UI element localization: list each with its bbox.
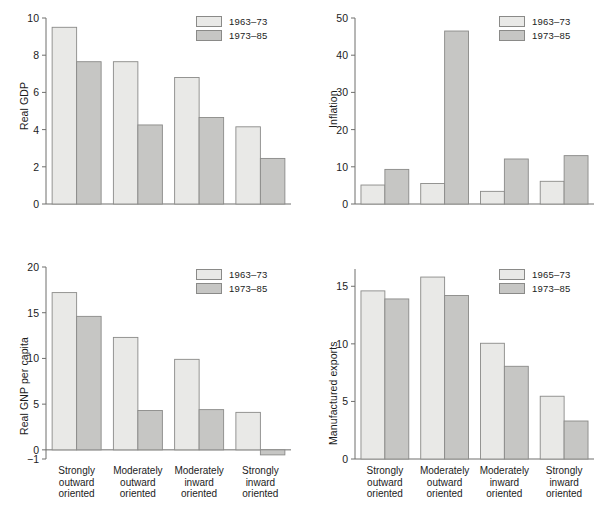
y-axis-tick-label: 5 <box>303 395 348 407</box>
bar <box>175 78 200 204</box>
y-axis-tick-label: 30 <box>303 86 348 98</box>
x-axis-category-label: Strongly outward oriented <box>355 465 415 500</box>
x-axis-category-label: Strongly outward oriented <box>46 465 107 500</box>
bar <box>236 127 261 204</box>
y-axis-tick-label: 10 <box>303 161 348 173</box>
bar <box>564 421 588 459</box>
bar <box>445 295 469 459</box>
bar <box>421 184 445 204</box>
y-axis-tick-label: 20 <box>303 124 348 136</box>
bar <box>564 156 588 204</box>
x-axis-category-labels: Strongly outward orientedModerately outw… <box>355 465 594 500</box>
chart-legend: 1963–731973–85 <box>196 16 267 41</box>
bar <box>421 277 445 459</box>
legend-item[interactable]: 1963–73 <box>196 16 267 27</box>
bar <box>504 366 528 459</box>
bar <box>175 359 200 450</box>
bar <box>77 316 102 449</box>
legend-item[interactable]: 1963–73 <box>196 269 267 280</box>
legend-label: 1973–85 <box>532 283 570 294</box>
legend-swatch-icon <box>196 283 222 294</box>
x-axis-category-label: Moderately inward oriented <box>475 465 535 500</box>
legend-swatch-icon <box>499 30 525 41</box>
y-axis-tick-label: 0 <box>303 198 348 210</box>
legend-swatch-icon <box>196 30 222 41</box>
chart-panel-real-gnp-per-capita: −105101520Real GNP per capita1963–731973… <box>0 255 303 515</box>
legend-swatch-icon <box>499 16 525 27</box>
bar <box>236 412 261 449</box>
bar <box>480 191 504 204</box>
bar <box>138 411 163 450</box>
bar <box>52 293 77 450</box>
y-axis-tick-label: 20 <box>0 261 39 273</box>
y-axis-tick-label: 10 <box>303 338 348 350</box>
y-axis-title: Real GNP per capita <box>18 337 30 435</box>
bar <box>260 450 285 455</box>
chart-legend: 1965–731973–85 <box>499 269 570 294</box>
legend-label: 1963–73 <box>229 269 267 280</box>
y-axis-title: Manufactured exports <box>327 341 339 445</box>
bar <box>540 181 564 204</box>
legend-item[interactable]: 1973–85 <box>499 30 570 41</box>
chart-legend: 1963–731973–85 <box>196 269 267 294</box>
y-axis-tick-label: 8 <box>0 49 39 61</box>
legend-label: 1973–85 <box>532 30 570 41</box>
x-axis-category-label: Moderately inward oriented <box>169 465 230 500</box>
legend-swatch-icon <box>499 283 525 294</box>
bar <box>52 27 77 204</box>
bar <box>260 158 285 204</box>
x-axis-category-label: Moderately outward oriented <box>415 465 475 500</box>
legend-swatch-icon <box>196 16 222 27</box>
bar <box>504 159 528 204</box>
y-axis-title: Inflation <box>327 90 339 128</box>
y-axis-tick-label: 10 <box>0 12 39 24</box>
x-axis-category-label: Moderately outward oriented <box>107 465 168 500</box>
bar <box>385 299 409 459</box>
legend-label: 1963–73 <box>229 16 267 27</box>
bar <box>361 291 385 459</box>
y-axis-title: Real GDP <box>18 82 30 130</box>
legend-item[interactable]: 1963–73 <box>499 16 570 27</box>
legend-item[interactable]: 1965–73 <box>499 269 570 280</box>
x-axis-category-label: Strongly inward oriented <box>534 465 594 500</box>
x-axis-category-labels: Strongly outward orientedModerately outw… <box>46 465 291 500</box>
y-axis-tick-label: 2 <box>0 161 39 173</box>
legend-label: 1973–85 <box>229 30 267 41</box>
legend-item[interactable]: 1973–85 <box>196 283 267 294</box>
legend-swatch-icon <box>196 269 222 280</box>
bar <box>540 396 564 459</box>
chart-legend: 1963–731973–85 <box>499 16 570 41</box>
bar <box>361 185 385 204</box>
y-axis-tick-label: 15 <box>0 307 39 319</box>
bar <box>445 31 469 204</box>
legend-item[interactable]: 1973–85 <box>499 283 570 294</box>
bar <box>113 62 138 204</box>
legend-label: 1965–73 <box>532 269 570 280</box>
legend-label: 1973–85 <box>229 283 267 294</box>
legend-swatch-icon <box>499 269 525 280</box>
chart-panel-inflation: 01020304050Inflation1963–731973–85 <box>303 0 606 260</box>
bar <box>480 343 504 459</box>
bar <box>385 169 409 204</box>
y-axis-tick-label: 0 <box>303 453 348 465</box>
figure-panel-grid: 0246810Real GDP1963–731973–85 0102030405… <box>0 0 606 520</box>
bar <box>199 118 224 204</box>
bar <box>199 410 224 450</box>
bar <box>113 337 138 449</box>
y-axis-tick-label: 50 <box>303 12 348 24</box>
legend-label: 1963–73 <box>532 16 570 27</box>
legend-item[interactable]: 1973–85 <box>196 30 267 41</box>
y-axis-tick-label: 15 <box>303 280 348 292</box>
y-axis-tick-label: 0 <box>0 198 39 210</box>
bar <box>138 125 163 204</box>
y-axis-tick-label: 0 <box>0 444 39 456</box>
chart-panel-manufactured-exports: 051015Manufactured exports1965–731973–85… <box>303 255 606 515</box>
x-axis-category-label: Strongly inward oriented <box>230 465 291 500</box>
y-axis-tick-label: 40 <box>303 49 348 61</box>
chart-panel-real-gdp: 0246810Real GDP1963–731973–85 <box>0 0 303 260</box>
bar <box>77 62 102 204</box>
